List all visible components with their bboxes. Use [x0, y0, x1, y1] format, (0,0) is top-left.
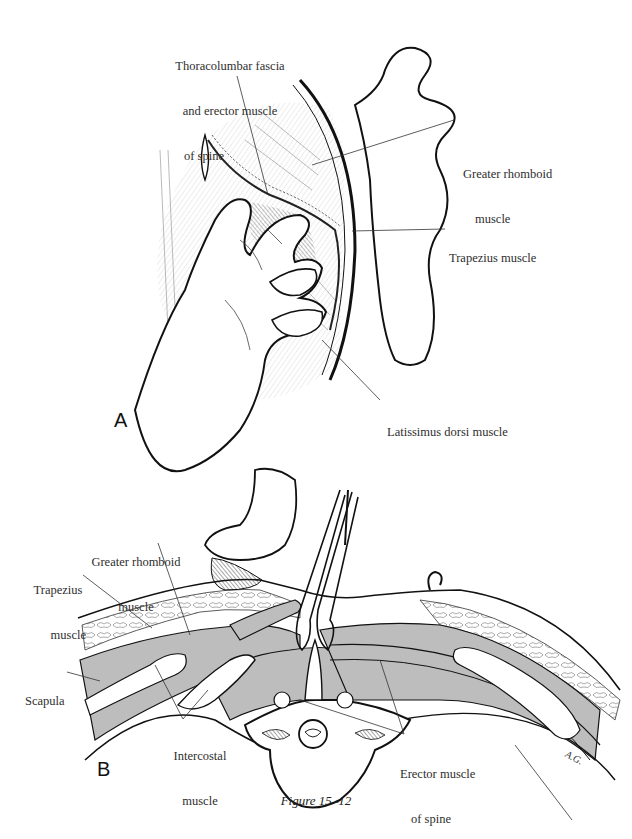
panel-a-trapezius-label: Trapezius muscle — [449, 221, 536, 296]
figure-caption: Figure 15–12 — [0, 793, 632, 809]
label-line: Greater rhomboid — [463, 167, 552, 182]
label-line: of spine — [400, 812, 475, 827]
label-line: Trapezius — [30, 583, 86, 598]
label-line: muscle — [86, 600, 186, 615]
label-line: Trapezius muscle — [449, 251, 536, 266]
label-line: Erector muscle — [400, 767, 475, 782]
label-line: Thoracolumbar fascia — [160, 59, 300, 74]
panel-b-intercostal-label: Intercostal muscle — [160, 719, 240, 839]
label-line: Scapula — [25, 694, 65, 709]
panel-b-scapula-label: Scapula — [25, 664, 65, 739]
panel-b-trapezius-label: Trapezius muscle — [30, 553, 86, 673]
panel-a-latissimus-dorsi-label: Latissimus dorsi muscle — [387, 395, 508, 470]
label-line: muscle — [30, 628, 86, 643]
label-line: of spine — [160, 149, 300, 164]
label-line: Greater rhomboid — [86, 555, 186, 570]
panel-b-letter: B — [97, 758, 110, 781]
label-line: Latissimus dorsi muscle — [387, 425, 508, 440]
panel-b-greater-rhomboid-label: Greater rhomboid muscle — [86, 525, 186, 645]
figure-page: Thoracolumbar fascia and erector muscle … — [0, 0, 632, 839]
panel-a-letter: A — [114, 409, 127, 432]
panel-b-erector-spine-label: Erector muscle of spine — [400, 737, 475, 839]
anatomical-illustration — [0, 0, 632, 839]
label-line: Intercostal — [160, 749, 240, 764]
label-line: and erector muscle — [160, 104, 300, 119]
panel-a-thoracolumbar-fascia-label: Thoracolumbar fascia and erector muscle … — [160, 29, 300, 194]
